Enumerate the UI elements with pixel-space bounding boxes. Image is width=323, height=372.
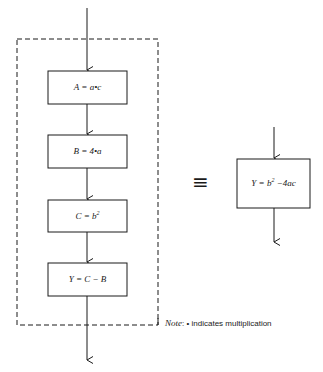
step-label-y: Y = C − B	[48, 274, 127, 284]
combined-step-label: Y = b2 −4ac	[237, 177, 310, 188]
multiplication-note: Note: • indicates multiplication	[165, 318, 272, 328]
step-label-b: B = 4•a	[48, 146, 127, 156]
equivalence-symbol: ≡	[192, 170, 209, 194]
step-label-c: C = b2	[48, 210, 127, 221]
note-text: indicates multiplication	[192, 319, 272, 328]
step-label-a: A = a•c	[48, 82, 127, 92]
multiplication-bullet: •	[186, 319, 189, 328]
note-label: Note	[165, 318, 182, 328]
